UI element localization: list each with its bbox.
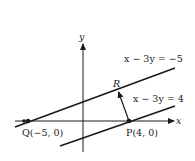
line-lower bbox=[60, 106, 175, 146]
y-axis-label: y bbox=[78, 31, 85, 42]
upper-line-equation: x − 3y = −5 bbox=[124, 53, 183, 64]
point-q bbox=[26, 119, 30, 123]
point-q-label: Q(−5, 0) bbox=[22, 127, 63, 138]
diagram-canvas: y x x − 3y = −5 x − 3y = 4 R Q(−5, 0) P(… bbox=[0, 0, 195, 161]
point-p bbox=[127, 119, 132, 124]
lower-line-equation: x − 3y = 4 bbox=[133, 93, 184, 104]
x-axis-label: x bbox=[176, 115, 182, 126]
point-p-label: P(4, 0) bbox=[126, 127, 158, 138]
point-r-label: R bbox=[112, 78, 120, 89]
point-q-2 bbox=[22, 119, 26, 123]
perpendicular-arrow bbox=[119, 92, 130, 121]
